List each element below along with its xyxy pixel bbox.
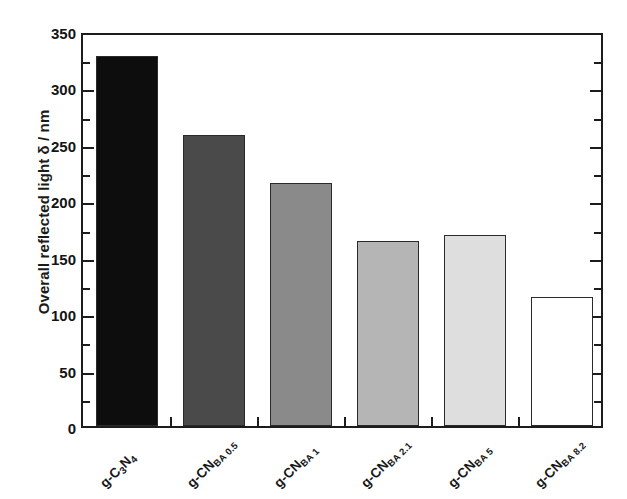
x-axis-category-label: g-CNBA 0.5 (184, 436, 240, 492)
y-axis-major-tick (83, 203, 94, 205)
y-axis-minor-tick-right (594, 62, 601, 64)
x-axis-category-label: g-CNBA 2.1 (358, 436, 414, 492)
y-axis-minor-tick (83, 175, 90, 177)
y-axis-tick-label: 250 (30, 137, 76, 154)
y-axis-major-tick (83, 373, 94, 375)
bar (357, 241, 419, 426)
bar (531, 297, 593, 426)
x-axis-tick (518, 417, 520, 426)
x-axis-tick (170, 417, 172, 426)
y-axis-tick-labels: 050100150200250300350 (24, 0, 76, 499)
x-axis-tick (344, 417, 346, 426)
bar (96, 56, 158, 426)
x-axis-category-label: g-CNBA 5 (445, 442, 495, 492)
y-axis-tick-label: 50 (30, 363, 76, 380)
x-axis-tick (257, 417, 259, 426)
y-axis-major-tick (83, 260, 94, 262)
y-axis-tick-label: 100 (30, 307, 76, 324)
y-axis-minor-tick-right (594, 288, 601, 290)
y-axis-major-tick (83, 316, 94, 318)
bar-chart-figure: Overall reflected light δ / nm 050100150… (0, 0, 627, 499)
x-axis-tick (431, 417, 433, 426)
y-axis-tick-label: 350 (30, 25, 76, 42)
y-axis-minor-tick (83, 401, 90, 403)
y-axis-major-tick (83, 147, 94, 149)
y-axis-tick-label: 0 (30, 420, 76, 437)
y-axis-minor-tick-right (594, 232, 601, 234)
plot-area (81, 33, 603, 428)
y-axis-minor-tick-right (594, 344, 601, 346)
bar (183, 135, 245, 426)
y-axis-minor-tick (83, 62, 90, 64)
y-axis-minor-tick-right (594, 175, 601, 177)
y-axis-major-tick-right (590, 203, 601, 205)
x-axis-category-label: g-CNBA 1 (271, 442, 321, 492)
bar (444, 235, 506, 426)
y-axis-minor-tick (83, 288, 90, 290)
y-axis-minor-tick (83, 119, 90, 121)
y-axis-tick-label: 300 (30, 81, 76, 98)
y-axis-minor-tick-right (594, 119, 601, 121)
x-axis-category-label: g-CNBA 8.2 (532, 436, 588, 492)
y-axis-minor-tick-right (594, 401, 601, 403)
y-axis-minor-tick (83, 232, 90, 234)
y-axis-major-tick-right (590, 90, 601, 92)
y-axis-major-tick-right (590, 260, 601, 262)
y-axis-major-tick-right (590, 147, 601, 149)
x-axis-category-label: g-C3N4 (97, 449, 140, 492)
y-axis-major-tick (83, 90, 94, 92)
y-axis-tick-label: 150 (30, 250, 76, 267)
bar (270, 183, 332, 426)
y-axis-tick-label: 200 (30, 194, 76, 211)
y-axis-minor-tick (83, 344, 90, 346)
